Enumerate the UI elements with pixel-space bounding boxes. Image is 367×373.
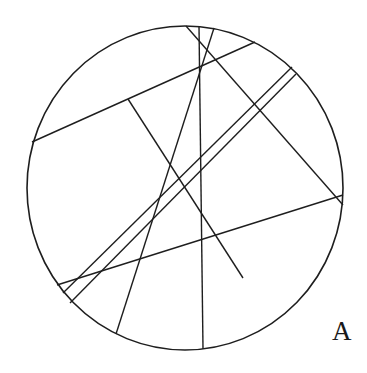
figure-label: A: [332, 318, 352, 345]
lower-chord: [57, 195, 343, 285]
long-diagonal-a: [186, 26, 343, 205]
double-line-1: [63, 67, 292, 293]
diagram-canvas: [0, 0, 367, 373]
chord-lines: [32, 26, 343, 349]
upper-chord: [32, 42, 255, 142]
steep-line-c: [116, 28, 214, 334]
double-line-2: [70, 74, 296, 303]
branch-line: [128, 99, 243, 278]
